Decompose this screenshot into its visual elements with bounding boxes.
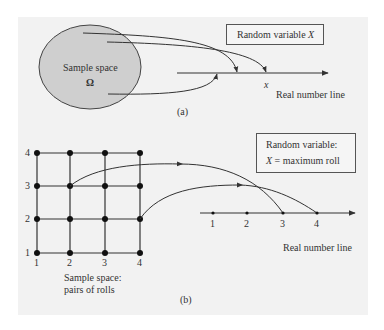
omega-symbol: Ω (86, 78, 94, 88)
random-variable-box-b: Random variable: X = maximum roll (256, 133, 356, 173)
random-variable-box-a: Random variable X (226, 24, 324, 45)
grid-x-label-1: 1 (34, 258, 39, 268)
point-label-x: x (264, 80, 268, 90)
grid-y-label-1: 1 (25, 248, 30, 258)
caption-a: (a) (177, 107, 188, 117)
grid-y-label-3: 3 (25, 181, 30, 191)
caption-b: (b) (180, 295, 192, 305)
box-b-line2: = maximum roll (272, 155, 340, 166)
random-variable-label: Random variable (237, 29, 308, 40)
box-b-line1: Random variable: (266, 140, 337, 150)
axis-tick-4: 4 (314, 219, 319, 229)
grid-y-label-2: 2 (25, 214, 30, 224)
mapping-arrow-2-3 (70, 164, 180, 186)
random-variable-symbol: X (308, 29, 314, 40)
axis-tick-1: 1 (210, 219, 215, 229)
mapping-arrow-4-2-tail (240, 185, 317, 213)
axis-tick-3: 3 (280, 219, 285, 229)
axis-tick-2: 2 (244, 219, 249, 229)
grid-x-label-3: 3 (102, 258, 107, 268)
grid-caption-line2: pairs of rolls (64, 285, 115, 295)
grid-y-label-4: 4 (25, 148, 30, 158)
real-number-line-label-b: Real number line (283, 243, 352, 253)
grid-caption-line1: Sample space: (64, 273, 121, 283)
mapping-arrow-4-2 (140, 185, 240, 219)
ellipse-label: Sample space (63, 63, 118, 73)
real-number-line-label-a: Real number line (276, 90, 345, 100)
sample-space-grid (37, 153, 140, 253)
grid-x-label-4: 4 (137, 258, 142, 268)
grid-x-label-2: 2 (67, 258, 72, 268)
